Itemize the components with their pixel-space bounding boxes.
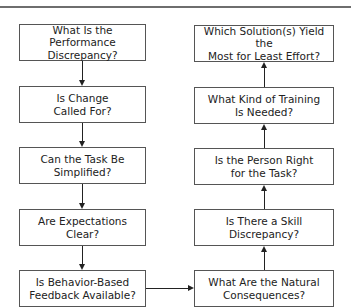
box-training-needed: What Kind of TrainingIs Needed? xyxy=(194,87,334,124)
box-text-line1: Is the Person Right xyxy=(215,154,314,167)
header-rule xyxy=(0,6,351,8)
box-natural-consequences: What Are the NaturalConsequences? xyxy=(194,270,334,307)
box-text-line2: Discrepancy? xyxy=(226,228,303,241)
box-text-line2: Most for Least Effort? xyxy=(199,50,329,63)
connector-line xyxy=(146,288,188,289)
box-expectations-clear: Are ExpectationsClear? xyxy=(19,209,146,246)
box-task-simplified: Can the Task BeSimplified? xyxy=(19,147,146,184)
box-text-line2: for the Task? xyxy=(215,167,314,180)
box-skill-discrepancy: Is There a SkillDiscrepancy? xyxy=(194,209,334,246)
connector-line xyxy=(82,184,83,203)
box-text-line2: Discrepancy? xyxy=(24,49,141,62)
box-text-line1: Is Behavior-Based xyxy=(29,276,135,289)
arrow-down-icon xyxy=(79,80,85,86)
connector-line xyxy=(264,130,265,148)
box-text-line1: Are Expectations xyxy=(38,215,127,228)
arrow-down-icon xyxy=(79,264,85,270)
box-text-line2: Simplified? xyxy=(41,166,125,179)
arrow-right-icon xyxy=(188,285,194,291)
connector-line xyxy=(82,123,83,141)
arrow-up-icon xyxy=(261,246,267,252)
box-text-line2: Is Needed? xyxy=(208,106,320,119)
box-change-called-for: Is ChangeCalled For? xyxy=(19,86,146,123)
box-text-line2: Called For? xyxy=(53,105,111,118)
connector-line xyxy=(264,252,265,270)
box-text-line2: Consequences? xyxy=(208,289,319,302)
box-behavior-feedback: Is Behavior-BasedFeedback Available? xyxy=(19,270,146,307)
box-person-right: Is the Person Rightfor the Task? xyxy=(194,148,334,185)
arrow-down-icon xyxy=(79,203,85,209)
box-text-line2: Clear? xyxy=(38,228,127,241)
box-text-line1: Is Change xyxy=(53,92,111,105)
box-text-line1: Which Solution(s) Yield the xyxy=(199,25,329,50)
box-solutions-yield: Which Solution(s) Yield theMost for Leas… xyxy=(194,25,334,62)
connector-line xyxy=(82,61,83,80)
box-text-line1: What Are the Natural xyxy=(208,276,319,289)
box-text-line1: Can the Task Be xyxy=(41,153,125,166)
arrow-up-icon xyxy=(261,124,267,130)
box-performance-discrepancy: What Is the PerformanceDiscrepancy? xyxy=(19,24,146,61)
arrow-up-icon xyxy=(261,185,267,191)
arrow-down-icon xyxy=(79,141,85,147)
box-text-line1: Is There a Skill xyxy=(226,215,303,228)
arrow-up-icon xyxy=(261,62,267,68)
connector-line xyxy=(264,68,265,87)
box-text-line1: What Kind of Training xyxy=(208,93,320,106)
box-text-line2: Feedback Available? xyxy=(29,289,135,302)
box-text-line1: What Is the Performance xyxy=(24,24,141,49)
connector-line xyxy=(82,246,83,264)
connector-line xyxy=(264,191,265,209)
